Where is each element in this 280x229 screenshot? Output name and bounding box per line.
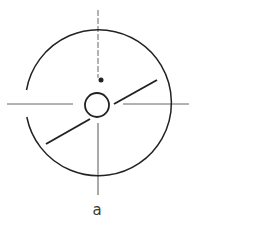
outer-circle-arc	[27, 30, 172, 176]
marker-dot	[99, 78, 104, 83]
diagram-canvas	[0, 0, 280, 229]
figure-label: a	[92, 203, 101, 218]
diagonal-segment-upper	[114, 80, 157, 104]
diagonal-segment-lower	[46, 119, 90, 144]
diagram-figure: a	[0, 0, 280, 229]
inner-circle	[85, 93, 109, 117]
